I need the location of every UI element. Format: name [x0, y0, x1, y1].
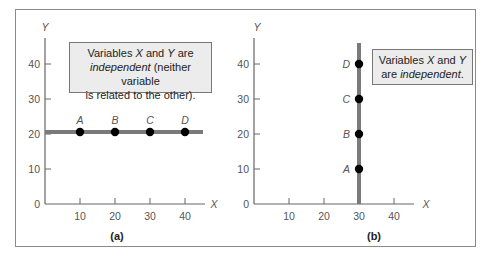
annotation-box-a: Variables X and Y are independent (neith… — [69, 42, 212, 93]
svg-text:0: 0 — [34, 198, 40, 210]
x-axis-label: X — [209, 198, 218, 210]
svg-text:C: C — [342, 93, 350, 105]
point-a — [76, 128, 84, 136]
svg-text:30: 30 — [237, 93, 249, 105]
y-ticks: 40 30 20 10 0 — [237, 58, 260, 210]
point-d — [181, 128, 189, 136]
x-axis-label: X — [421, 198, 430, 210]
svg-text:40: 40 — [179, 210, 191, 222]
svg-text:10: 10 — [74, 210, 86, 222]
svg-text:B: B — [111, 114, 118, 126]
svg-text:20: 20 — [28, 128, 40, 140]
svg-text:10: 10 — [283, 210, 295, 222]
point-d — [355, 60, 363, 68]
point-b — [111, 128, 119, 136]
svg-text:30: 30 — [353, 210, 365, 222]
chart-svg: Y X 40 30 20 10 0 10 20 30 40 A B C D (a… — [0, 0, 488, 257]
point-c — [355, 95, 363, 103]
svg-text:10: 10 — [28, 163, 40, 175]
svg-text:40: 40 — [388, 210, 400, 222]
point-c — [146, 128, 154, 136]
svg-text:C: C — [146, 114, 154, 126]
svg-text:D: D — [181, 114, 189, 126]
svg-text:40: 40 — [237, 58, 249, 70]
y-axis-label: Y — [41, 21, 49, 33]
point-a — [355, 165, 363, 173]
svg-text:30: 30 — [144, 210, 156, 222]
panel-caption: (a) — [110, 230, 124, 242]
svg-text:B: B — [343, 128, 350, 140]
x-ticks: 10 20 30 40 — [283, 198, 400, 222]
svg-text:20: 20 — [318, 210, 330, 222]
y-axis-label: Y — [253, 21, 261, 33]
svg-text:10: 10 — [237, 163, 249, 175]
svg-text:D: D — [342, 58, 350, 70]
panel-caption: (b) — [367, 230, 381, 242]
svg-text:20: 20 — [237, 128, 249, 140]
svg-text:A: A — [342, 163, 350, 175]
x-ticks: 10 20 30 40 — [74, 198, 191, 222]
svg-text:0: 0 — [243, 198, 249, 210]
svg-text:A: A — [75, 114, 83, 126]
annotation-box-b: Variables X and Y are independent. — [372, 49, 473, 85]
svg-text:40: 40 — [28, 58, 40, 70]
svg-text:30: 30 — [28, 93, 40, 105]
svg-text:20: 20 — [109, 210, 121, 222]
point-b — [355, 130, 363, 138]
